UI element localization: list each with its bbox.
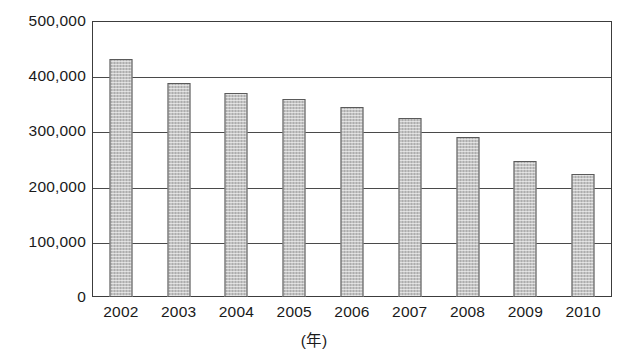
bar-slot [265, 21, 323, 297]
bar-chart: 0100,000200,000300,000400,000500,000 200… [0, 0, 628, 361]
x-axis-tick-label: 2006 [323, 303, 381, 321]
bar[interactable] [109, 59, 132, 297]
y-axis-tick-label: 200,000 [0, 178, 86, 196]
x-axis-tick-label: 2003 [150, 303, 208, 321]
x-axis-tick-label: 2008 [439, 303, 497, 321]
bar-slot [381, 21, 439, 297]
bar[interactable] [398, 118, 421, 297]
x-axis-tick-label: 2010 [554, 303, 612, 321]
bar[interactable] [572, 174, 595, 297]
y-axis-tick-label: 300,000 [0, 122, 86, 140]
bar-slot [208, 21, 266, 297]
x-axis-tick-label: 2005 [265, 303, 323, 321]
bar-slot [496, 21, 554, 297]
y-axis-tick-label: 400,000 [0, 67, 86, 85]
bar[interactable] [167, 83, 190, 297]
bar-slot [150, 21, 208, 297]
bar-slot [439, 21, 497, 297]
bar-slot [554, 21, 612, 297]
bar[interactable] [283, 99, 306, 297]
y-axis-tick-label: 100,000 [0, 233, 86, 251]
y-axis-tick-label: 0 [0, 288, 86, 306]
x-axis-labels: 200220032004200520062007200820092010 [92, 303, 612, 327]
bar[interactable] [340, 107, 363, 297]
bar-slot [92, 21, 150, 297]
x-axis-tick-label: 2002 [92, 303, 150, 321]
x-axis-tick-label: 2007 [381, 303, 439, 321]
x-axis-tick-label: 2004 [208, 303, 266, 321]
bar[interactable] [514, 161, 537, 297]
bars-layer [92, 21, 612, 297]
x-axis-title: (年) [0, 328, 628, 350]
bar[interactable] [225, 93, 248, 297]
bar-slot [323, 21, 381, 297]
bar[interactable] [456, 137, 479, 297]
y-axis-labels: 0100,000200,000300,000400,000500,000 [0, 0, 86, 361]
y-axis-tick-label: 500,000 [0, 12, 86, 30]
x-axis-tick-label: 2009 [496, 303, 554, 321]
